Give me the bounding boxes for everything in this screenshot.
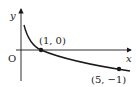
x-axis-label: x bbox=[126, 53, 132, 64]
point-label-1-0: (1, 0) bbox=[39, 35, 66, 46]
origin-label: O bbox=[8, 53, 16, 64]
point-5-neg1 bbox=[117, 67, 121, 71]
y-axis-label: y bbox=[9, 10, 16, 21]
point-1-0 bbox=[39, 48, 43, 52]
point-label-5-neg1: (5, −1) bbox=[91, 74, 126, 85]
function-graph: y x O (1, 0) (5, −1) bbox=[0, 0, 136, 87]
log-curve bbox=[24, 25, 130, 71]
